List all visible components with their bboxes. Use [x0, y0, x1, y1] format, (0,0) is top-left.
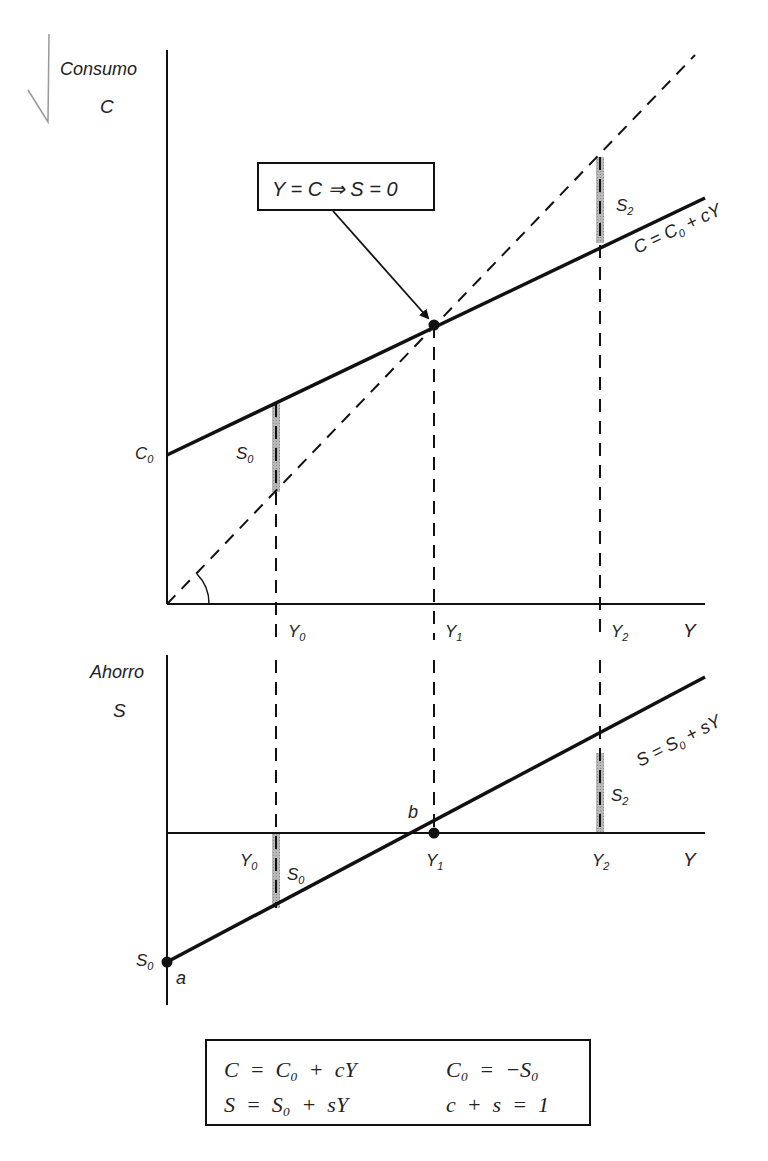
equation-propensities: c + s = 1	[446, 1092, 549, 1117]
saving-line	[167, 677, 705, 962]
point-a	[162, 957, 173, 968]
tick-y2-top: Y2	[611, 622, 628, 643]
s2-gap-label-top: S2	[616, 196, 633, 217]
equilibrium-point	[429, 320, 440, 331]
point-b-label: b	[408, 802, 418, 822]
angle-arc	[197, 574, 209, 604]
equation-c0: C₀ = −S₀	[446, 1057, 539, 1082]
saving-chart	[162, 655, 706, 1005]
point-a-label: a	[176, 968, 186, 988]
callout-text: Y = C ⇒ S = 0	[272, 178, 398, 200]
tick-y1-top: Y1	[445, 622, 462, 643]
c0-intercept-label: C0	[135, 444, 154, 465]
y-axis-symbol-bottom: Y	[683, 849, 697, 870]
s2-gap-label-bottom: S2	[611, 786, 628, 807]
tick-y2-bottom: Y2	[592, 851, 609, 872]
equation-consumption: C = C₀ + cY	[224, 1057, 359, 1082]
consumo-title: Consumo	[60, 59, 137, 79]
consumption-function-label: C = C0 + cY	[630, 199, 726, 260]
s0-intercept-label: S0	[136, 951, 154, 972]
y-axis-symbol-top: Y	[683, 620, 697, 641]
c-axis-symbol: C	[100, 96, 114, 117]
tick-y1-bottom: Y1	[426, 851, 443, 872]
check-mark-icon	[28, 34, 49, 122]
s0-gap-label-bottom: S0	[287, 865, 305, 886]
consumption-saving-diagram: Consumo C Y = C ⇒ S = 0 C0 S0 S2 C = C0 …	[0, 0, 768, 1161]
equation-saving: S = S₀ + sY	[224, 1092, 351, 1117]
callout-arrow	[333, 211, 428, 318]
tick-y0-bottom: Y0	[240, 851, 258, 872]
consumption-chart	[167, 50, 705, 640]
saving-function-label: S = S0 + sY	[633, 710, 727, 772]
point-b	[429, 828, 440, 839]
s0-gap-label-top: S0	[236, 444, 254, 465]
tick-y0-top: Y0	[288, 622, 306, 643]
ahorro-title: Ahorro	[89, 662, 144, 682]
s-axis-symbol: S	[113, 700, 126, 721]
